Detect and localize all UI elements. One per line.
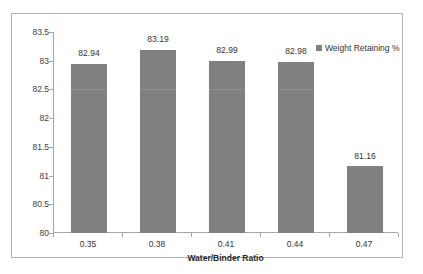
y-tick-label-83-5: 83.5: [12, 28, 49, 37]
y-tick-label-81: 81: [12, 171, 49, 180]
y-tick-label-83: 83: [12, 56, 49, 65]
legend-series-label: Weight Retaining %: [325, 44, 400, 53]
bar-gridline: [278, 89, 314, 90]
x-category-label-1: 0.38: [149, 240, 166, 249]
bar-gridline: [71, 89, 107, 90]
x-category-label-4: 0.47: [356, 240, 373, 249]
bar-value-label-3: 82.98: [285, 47, 306, 56]
x-category-label-2: 0.41: [218, 240, 235, 249]
bar-value-label-0: 82.94: [78, 49, 99, 58]
x-axis-title: Water/Binder Ratio: [53, 254, 398, 263]
y-tick-label-80: 80: [12, 229, 49, 238]
bar-value-label-1: 83.19: [147, 35, 168, 44]
bar-gridline: [140, 89, 176, 90]
y-tick-label-81-5: 81.5: [12, 143, 49, 152]
y-tick-label-82: 82: [12, 114, 49, 123]
bar-value-label-2: 82.99: [216, 46, 237, 55]
x-category-label-0: 0.35: [80, 240, 97, 249]
x-tick-mark-1: [122, 233, 123, 237]
bar-0[interactable]: [71, 64, 107, 233]
bar-2[interactable]: [209, 61, 245, 233]
plot-area: [53, 32, 398, 233]
scan-artifact-speck: [294, 138, 295, 139]
y-tick-label-80-5: 80.5: [12, 200, 49, 209]
x-tick-mark-3: [260, 233, 261, 237]
bar-1[interactable]: [140, 50, 176, 233]
x-tick-mark-4: [329, 233, 330, 237]
x-tick-mark-5: [398, 233, 399, 237]
x-tick-mark-2: [191, 233, 192, 237]
bar-gridline: [209, 89, 245, 90]
bar-3[interactable]: [278, 62, 314, 233]
chart-frame: 80 80.5 81 81.5 82 82.5 83 83.5 82.94 83…: [11, 13, 403, 258]
bar-4[interactable]: [347, 166, 383, 233]
bar-value-label-4: 81.16: [354, 152, 375, 161]
y-tick-label-82-5: 82.5: [12, 85, 49, 94]
chart-legend[interactable]: Weight Retaining %: [316, 44, 400, 53]
legend-color-swatch-icon: [316, 45, 322, 51]
x-tick-mark-0: [53, 233, 54, 237]
x-category-label-3: 0.44: [287, 240, 304, 249]
